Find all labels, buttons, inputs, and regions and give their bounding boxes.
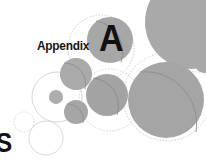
circle-small-inner	[49, 90, 63, 104]
circle-left-lower-group	[64, 100, 88, 124]
circle-center-group	[86, 74, 128, 116]
appendix-label: Appendix	[37, 38, 89, 53]
circle-center	[86, 74, 128, 116]
appendix-letter: A	[99, 17, 124, 61]
circle-right-mid-group	[128, 62, 204, 138]
outline-circle-bottom	[29, 121, 63, 155]
circle-left-mid-group	[60, 58, 92, 90]
page-edge-glyph: S	[0, 128, 12, 158]
circle-right-mid	[128, 62, 204, 138]
appendix-divider-page: Appendix A S	[0, 0, 206, 161]
